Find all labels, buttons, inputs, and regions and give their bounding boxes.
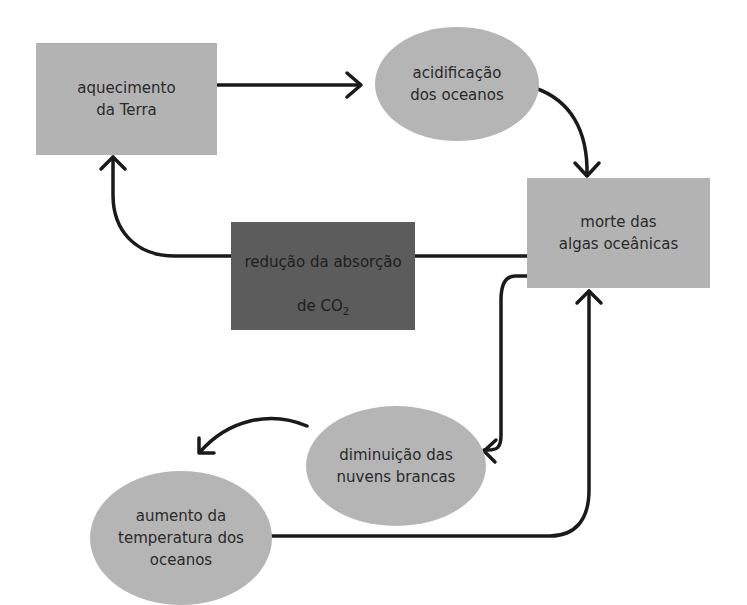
edge-acidificacao-morte [535,88,587,175]
node-label: redução da absorção de CO2 [244,229,401,323]
node-label-line2: de CO [297,297,343,315]
node-label: aumento da temperatura dos oceanos [118,505,244,571]
node-label: diminuição das nuvens brancas [337,444,456,488]
node-label: aquecimento da Terra [77,77,175,121]
node-label: morte das algas oceânicas [559,211,678,255]
edge-diminuicao-aumento [200,418,307,452]
node-aumento-temperatura-oceanos: aumento da temperatura dos oceanos [90,471,272,605]
node-acidificacao-dos-oceanos: acidificação dos oceanos [375,27,539,141]
node-reducao-absorcao-co2: redução da absorção de CO2 [231,222,415,330]
node-morte-das-algas: morte das algas oceânicas [527,178,710,288]
edge-reducao-aquecimento [113,157,231,256]
subscript: 2 [343,306,349,317]
node-label: acidificação dos oceanos [410,62,504,106]
node-label-line1: redução da absorção [244,253,401,271]
edge-morte-diminuicao [484,276,527,450]
node-aquecimento-da-terra: aquecimento da Terra [36,43,217,155]
node-diminuicao-nuvens-brancas: diminuição das nuvens brancas [306,406,486,526]
